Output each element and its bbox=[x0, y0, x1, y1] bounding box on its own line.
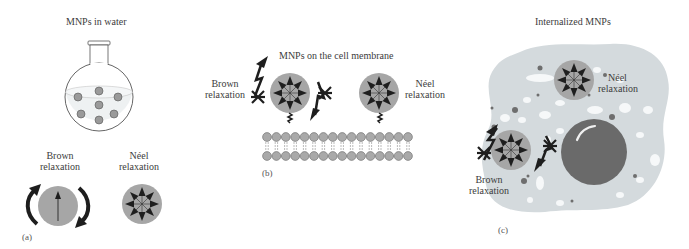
panel-b-title: MNPs on the cell membrane bbox=[279, 50, 393, 61]
lipid-head bbox=[281, 152, 290, 161]
label-line: Brown bbox=[40, 150, 80, 161]
label-line: Brown bbox=[205, 78, 245, 89]
brown-particle-a bbox=[28, 184, 89, 228]
lipid-head bbox=[385, 152, 394, 161]
tether-b1 bbox=[288, 113, 292, 123]
lipid-head bbox=[366, 152, 375, 161]
neel-particle-b bbox=[359, 73, 399, 113]
panel-b-brown-label: Brown relaxation bbox=[205, 78, 245, 100]
brown-particle-b bbox=[251, 56, 332, 121]
neel-particle-a bbox=[122, 184, 162, 224]
lipid-head bbox=[357, 133, 366, 142]
diagram-canvas bbox=[0, 0, 689, 249]
lipid-head bbox=[300, 152, 309, 161]
flask-with-mnps bbox=[65, 41, 133, 131]
label-line: Brown bbox=[469, 174, 509, 185]
lipid-head bbox=[310, 133, 319, 142]
lipid-head bbox=[263, 133, 272, 142]
cell-membrane bbox=[263, 133, 413, 161]
panel-b-tag: (b) bbox=[262, 168, 273, 178]
lipid-head bbox=[300, 133, 309, 142]
lipid-head bbox=[347, 133, 356, 142]
panel-a-tag: (a) bbox=[22, 232, 32, 242]
panel-c-brown-label: Brown relaxation bbox=[469, 174, 509, 196]
lipid-head bbox=[385, 133, 394, 142]
lipid-head bbox=[404, 152, 413, 161]
lipid-head bbox=[338, 152, 347, 161]
lipid-head bbox=[291, 133, 300, 142]
tether-b2 bbox=[378, 113, 382, 123]
panel-a-neel-label: Néel relaxation bbox=[119, 150, 159, 172]
nucleus bbox=[561, 119, 627, 185]
lipid-head bbox=[338, 133, 347, 142]
label-line: Néel bbox=[598, 72, 638, 83]
label-line: Néel bbox=[405, 78, 445, 89]
label-line: relaxation bbox=[469, 185, 509, 196]
lipid-head bbox=[263, 152, 272, 161]
panel-b bbox=[251, 56, 412, 160]
lipid-head bbox=[319, 133, 328, 142]
panel-b-neel-label: Néel relaxation bbox=[405, 78, 445, 100]
lipid-head bbox=[357, 152, 366, 161]
label-line: Néel bbox=[119, 150, 159, 161]
lipid-head bbox=[347, 152, 356, 161]
lipid-head bbox=[404, 133, 413, 142]
lipid-head bbox=[375, 133, 384, 142]
panel-c-tag: (c) bbox=[498, 225, 508, 235]
label-line: relaxation bbox=[598, 83, 638, 94]
lipid-head bbox=[394, 152, 403, 161]
lipid-head bbox=[328, 152, 337, 161]
lipid-head bbox=[328, 133, 337, 142]
panel-a-title: MNPs in water bbox=[66, 16, 127, 27]
label-line: relaxation bbox=[205, 89, 245, 100]
neel-particle-c bbox=[554, 60, 594, 100]
lipid-head bbox=[394, 133, 403, 142]
lipid-head bbox=[375, 152, 384, 161]
lipid-head bbox=[366, 133, 375, 142]
panel-c-title: Internalized MNPs bbox=[535, 16, 611, 27]
panel-a-brown-label: Brown relaxation bbox=[40, 150, 80, 172]
panel-a bbox=[28, 41, 162, 228]
panel-c-neel-label: Néel relaxation bbox=[598, 72, 638, 94]
lipid-head bbox=[272, 152, 281, 161]
lipid-head bbox=[272, 133, 281, 142]
lipid-head bbox=[291, 152, 300, 161]
lipid-head bbox=[319, 152, 328, 161]
label-line: relaxation bbox=[405, 89, 445, 100]
label-line: relaxation bbox=[119, 161, 159, 172]
lipid-head bbox=[310, 152, 319, 161]
label-line: relaxation bbox=[40, 161, 80, 172]
lipid-head bbox=[281, 133, 290, 142]
